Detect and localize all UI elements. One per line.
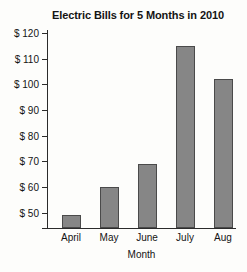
x-axis-line — [42, 228, 236, 229]
y-axis-tick — [42, 33, 47, 34]
y-axis-tick — [42, 213, 47, 214]
y-axis-label: $ 70 — [0, 156, 39, 167]
y-axis-tick — [42, 161, 47, 162]
y-axis-label: $ 100 — [0, 79, 39, 90]
y-axis-tick — [42, 187, 47, 188]
y-axis-tick — [42, 59, 47, 60]
y-axis-label: $ 90 — [0, 105, 39, 116]
x-axis-title: Month — [47, 249, 236, 260]
bar-july — [176, 46, 195, 228]
y-axis-tick — [42, 136, 47, 137]
y-axis-tick — [42, 84, 47, 85]
y-axis-label: $ 110 — [0, 53, 39, 64]
bar-june — [138, 164, 157, 228]
y-axis-label: $ 60 — [0, 181, 39, 192]
bar-april — [62, 215, 81, 228]
bar-chart: Electric Bills for 5 Months in 2010 $ 50… — [0, 0, 247, 272]
y-axis-label: $ 80 — [0, 130, 39, 141]
plot-area: $ 50$ 60$ 70$ 80$ 90$ 100$ 110$ 120 Apri… — [0, 0, 247, 272]
y-axis-label: $ 50 — [0, 207, 39, 218]
y-axis-tick — [42, 110, 47, 111]
bar-aug — [214, 79, 233, 228]
bar-may — [100, 187, 119, 228]
x-axis-label-aug: Aug — [201, 232, 245, 243]
y-axis-line — [47, 30, 48, 229]
y-axis-label: $ 120 — [0, 28, 39, 39]
